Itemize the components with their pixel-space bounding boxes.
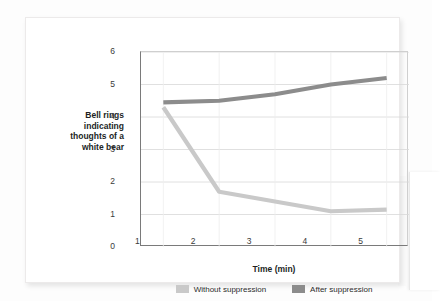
legend-swatch-icon	[176, 285, 189, 293]
x-tick-label: 2	[178, 236, 208, 246]
x-tick-label: 1	[122, 236, 152, 246]
legend-label: Without suppression	[194, 285, 266, 294]
plot-area	[140, 51, 408, 246]
y-tick-label: 1	[87, 209, 115, 219]
y-tick-label: 6	[87, 46, 115, 56]
x-tick-label: 3	[234, 236, 264, 246]
y-tick-label: 0	[87, 241, 115, 251]
legend-item: After suppression	[292, 285, 372, 294]
chart-legend: Without suppressionAfter suppression	[140, 282, 408, 296]
legend-swatch-icon	[292, 285, 305, 293]
legend-item: Without suppression	[176, 285, 266, 294]
x-axis-title: Time (min)	[140, 264, 408, 274]
legend-label: After suppression	[310, 285, 372, 294]
y-tick-label: 4	[87, 111, 115, 121]
x-tick-label: 4	[290, 236, 320, 246]
y-tick-label: 5	[87, 79, 115, 89]
y-tick-label: 3	[87, 144, 115, 154]
y-tick-label: 2	[87, 176, 115, 186]
chart-canvas	[141, 52, 409, 247]
chart-card: Bell rings indicating thoughts of a whit…	[25, 17, 400, 283]
adjacent-panel-edge	[409, 172, 440, 290]
x-tick-label: 5	[346, 236, 376, 246]
